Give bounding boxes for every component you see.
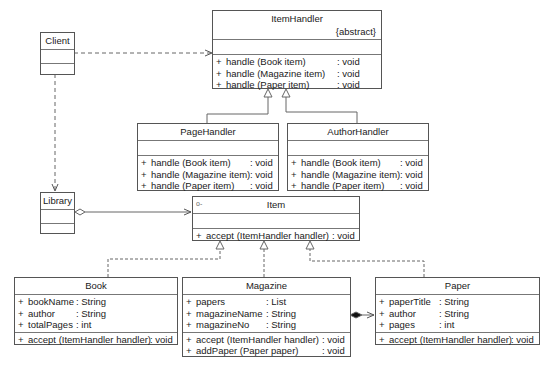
attribute-row: +magazineName: String	[186, 308, 347, 320]
class-book[interactable]: Book +bookName: String +author: String +…	[14, 277, 178, 345]
attributes-compartment	[41, 50, 74, 64]
realization-book	[108, 249, 220, 277]
class-magazine[interactable]: Magazine +papers: List +magazineName: St…	[182, 277, 351, 357]
class-itemhandler[interactable]: ItemHandler {abstract} +handle (Book ite…	[212, 10, 382, 89]
methods-compartment: +handle (Book item): void +handle (Magaz…	[213, 55, 381, 92]
class-library[interactable]: Library	[40, 192, 75, 234]
method-row: +handle (Magazine item): void	[141, 169, 275, 181]
attributes-compartment	[288, 141, 428, 156]
method-row: +accept (ItemHandler handler): void	[18, 334, 174, 346]
method-row: +handle (Book item): void	[141, 157, 275, 169]
class-authorhandler[interactable]: AuthorHandler +handle (Book item): void …	[287, 123, 429, 191]
attributes-compartment	[41, 210, 74, 224]
attributes-compartment: +bookName: String +author: String +total…	[15, 295, 177, 333]
realization-paper	[310, 249, 424, 277]
methods-compartment: +accept (ItemHandler handler): void	[193, 229, 359, 243]
class-name: Item	[193, 197, 359, 214]
attribute-row: +pages: int	[379, 319, 536, 331]
method-row: +handle (Paper item): void	[141, 180, 275, 192]
class-name: ItemHandler	[271, 13, 323, 24]
class-paper[interactable]: Paper +paperTitle: String +author: Strin…	[375, 277, 540, 345]
generalization-pagehandler	[207, 89, 272, 123]
class-client[interactable]: Client	[40, 32, 75, 75]
method-row: +handle (Book item): void	[216, 56, 378, 68]
class-name: PageHandler	[138, 124, 278, 141]
methods-compartment: +accept (ItemHandler handler): void	[15, 333, 177, 347]
class-item[interactable]: o- Item +accept (ItemHandler handler): v…	[192, 196, 360, 241]
class-name: Magazine	[183, 278, 350, 295]
attribute-row: +totalPages: int	[18, 319, 174, 331]
class-header: ItemHandler {abstract}	[213, 11, 381, 40]
attributes-compartment: +paperTitle: String +author: String +pag…	[376, 295, 539, 333]
method-row: +accept (ItemHandler handler): void	[186, 334, 347, 346]
methods-compartment: +handle (Book item): void +handle (Magaz…	[288, 156, 428, 193]
aggregation-library-item	[75, 209, 191, 215]
attributes-compartment	[213, 40, 381, 55]
methods-compartment: +accept (ItemHandler handler): void	[376, 333, 539, 347]
generalization-authorhandler	[282, 89, 357, 123]
method-row: +handle (Book item): void	[291, 157, 425, 169]
methods-compartment: +accept (ItemHandler handler): void +add…	[183, 333, 350, 358]
attribute-row: +author: String	[379, 308, 536, 320]
interface-icon: o-	[196, 200, 202, 207]
methods-compartment	[41, 224, 74, 237]
methods-compartment	[41, 64, 74, 77]
attribute-row: +bookName: String	[18, 296, 174, 308]
class-name: AuthorHandler	[288, 124, 428, 141]
attribute-row: +paperTitle: String	[379, 296, 536, 308]
methods-compartment: +handle (Book item): void +handle (Magaz…	[138, 156, 278, 193]
composition-magazine-paper	[350, 312, 374, 318]
class-pagehandler[interactable]: PageHandler +handle (Book item): void +h…	[137, 123, 279, 191]
method-row: +accept (ItemHandler handler): void	[196, 230, 356, 242]
attribute-row: +magazineNo: String	[186, 319, 347, 331]
attribute-row: +author: String	[18, 308, 174, 320]
method-row: +accept (ItemHandler handler): void	[379, 334, 536, 346]
class-name: Library	[41, 193, 74, 210]
attribute-row: +papers: List	[186, 296, 347, 308]
attributes-compartment: +papers: List +magazineName: String +mag…	[183, 295, 350, 333]
class-name: Book	[15, 278, 177, 295]
method-row: +addPaper (Paper paper): void	[186, 345, 347, 357]
method-row: +handle (Magazine item): void	[291, 169, 425, 181]
class-name: Client	[41, 33, 74, 50]
method-row: +handle (Paper item): void	[216, 79, 378, 91]
attributes-compartment	[193, 214, 359, 229]
class-name: Paper	[376, 278, 539, 295]
stereotype: {abstract}	[215, 26, 379, 38]
attributes-compartment	[138, 141, 278, 156]
method-row: +handle (Magazine item): void	[216, 68, 378, 80]
method-row: +handle (Paper item): void	[291, 180, 425, 192]
